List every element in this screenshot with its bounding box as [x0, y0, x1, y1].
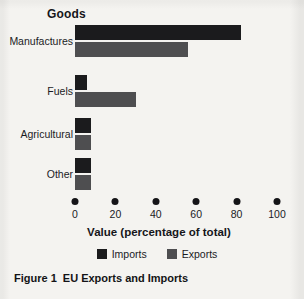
x-axis-title: Value (percentage of total): [0, 226, 304, 238]
figure-caption-text: EU Exports and Imports: [63, 272, 188, 284]
category-label-other: Other: [47, 168, 73, 180]
x-tick-label-40: 40: [150, 208, 162, 220]
x-tick-dot-20: [112, 198, 119, 205]
category-label-fuels: Fuels: [47, 85, 73, 97]
chart-group-title: Goods: [47, 7, 86, 21]
x-tick-dot-0: [72, 198, 79, 205]
category-label-agricultural: Agricultural: [20, 128, 73, 140]
x-tick-dot-40: [152, 198, 159, 205]
bar-exports-fuels: [75, 92, 136, 107]
x-tick-label-100: 100: [268, 208, 286, 220]
x-tick-label-80: 80: [231, 208, 243, 220]
plot-area: ManufacturesFuelsAgriculturalOther: [0, 22, 304, 200]
legend-item-imports: Imports: [97, 248, 147, 260]
x-axis: 020406080100: [0, 198, 304, 228]
figure-eu-exports-imports: Goods ManufacturesFuelsAgriculturalOther…: [0, 0, 304, 299]
x-tick-label-20: 20: [110, 208, 122, 220]
x-tick-dot-100: [274, 198, 281, 205]
legend-swatch-exports-icon: [167, 249, 177, 259]
bar-imports-agricultural: [75, 118, 91, 133]
legend-label-exports: Exports: [182, 248, 218, 260]
bar-imports-fuels: [75, 75, 87, 90]
x-tick-dot-80: [233, 198, 240, 205]
legend-swatch-imports-icon: [97, 249, 107, 259]
bar-imports-other: [75, 158, 91, 173]
legend-label-imports: Imports: [112, 248, 147, 260]
bar-exports-other: [75, 175, 91, 190]
legend-item-exports: Exports: [167, 248, 218, 260]
x-tick-label-0: 0: [72, 208, 78, 220]
x-tick-label-60: 60: [190, 208, 202, 220]
bar-exports-agricultural: [75, 135, 91, 150]
chart-legend: ImportsExports: [0, 248, 304, 260]
figure-caption: Figure 1EU Exports and Imports: [14, 272, 188, 284]
bar-imports-manufactures: [75, 25, 241, 40]
x-tick-dot-60: [193, 198, 200, 205]
figure-caption-number: Figure 1: [14, 272, 57, 284]
category-label-manufactures: Manufactures: [9, 35, 73, 47]
bar-exports-manufactures: [75, 42, 188, 57]
